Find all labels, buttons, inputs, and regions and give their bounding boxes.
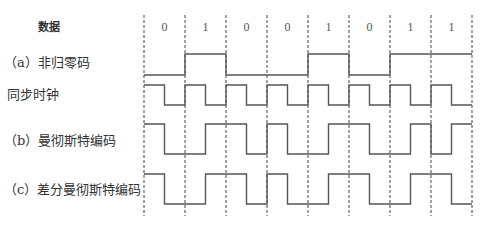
nrz-waveform [144,54,472,75]
bit-value: 1 [326,20,332,34]
bit-boundary-lines [144,15,472,216]
manchester-row-label: （b）曼彻斯特编码 [4,133,116,148]
bit-value: 0 [162,20,168,34]
manchester-waveform [144,124,472,154]
bit-value: 0 [285,20,291,34]
clock-row-label: 同步时钟 [7,87,59,102]
bit-value: 0 [367,20,373,34]
bit-value: 1 [449,20,455,34]
bit-value: 1 [203,20,209,34]
clock-waveform [144,85,472,105]
nrz-row-label: （a）非归零码 [4,55,90,70]
bit-value: 1 [408,20,414,34]
diff-manchester-waveform [144,174,472,204]
bit-value: 0 [244,20,250,34]
diff-manchester-row-label: （c）差分曼彻斯特编码 [4,182,141,197]
data-row-label: 数据 [38,20,60,34]
encoding-timing-diagram: 数据 （a）非归零码 同步时钟 （b）曼彻斯特编码 （c）差分曼彻斯特编码 01… [0,0,484,227]
row-labels: 数据 （a）非归零码 同步时钟 （b）曼彻斯特编码 （c）差分曼彻斯特编码 [4,20,141,197]
